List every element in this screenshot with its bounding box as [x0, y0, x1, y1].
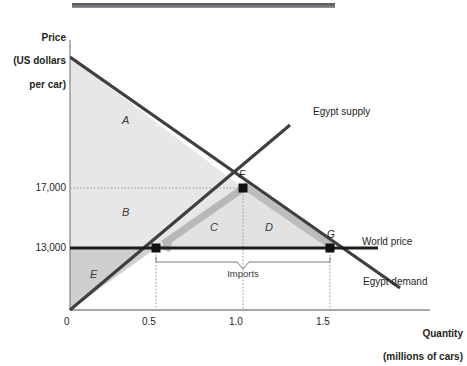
y-axis-title-line2: (US dollars — [13, 55, 66, 66]
x-tick-15: 1.5 — [316, 316, 330, 328]
x-tick-05: 0.5 — [142, 316, 156, 328]
x-tick-10: 1.0 — [229, 316, 243, 328]
egypt-demand-label: Egypt demand — [363, 276, 428, 288]
y-axis-title: Price (US dollars per car) — [0, 20, 66, 103]
point-g-label: G — [327, 229, 335, 241]
region-c-label: C — [210, 221, 218, 234]
world-price-label: World price — [362, 236, 412, 248]
imports-label: Imports — [208, 268, 278, 279]
y-tick-13000: 13,000 — [8, 242, 66, 254]
region-a-label: A — [122, 114, 129, 127]
point-g-marker[interactable] — [326, 244, 335, 253]
point-f-marker[interactable] — [239, 184, 248, 193]
region-d-label: D — [265, 221, 273, 234]
point-f-label: F — [239, 169, 245, 181]
x-axis-title: Quantity (millions of cars) — [330, 316, 463, 366]
region-e-label: E — [90, 268, 97, 281]
point-q05-marker[interactable] — [152, 244, 161, 253]
y-axis-title-line3: per car) — [29, 79, 66, 90]
y-tick-17000: 17,000 — [8, 182, 66, 194]
region-b-label: B — [122, 206, 129, 219]
egypt-supply-label: Egypt supply — [313, 106, 370, 118]
origin-tick-label: 0 — [64, 316, 70, 328]
y-axis-title-line1: Price — [42, 32, 66, 43]
x-axis-title-line1: Quantity — [422, 328, 463, 339]
x-axis-title-line2: (millions of cars) — [383, 351, 463, 362]
